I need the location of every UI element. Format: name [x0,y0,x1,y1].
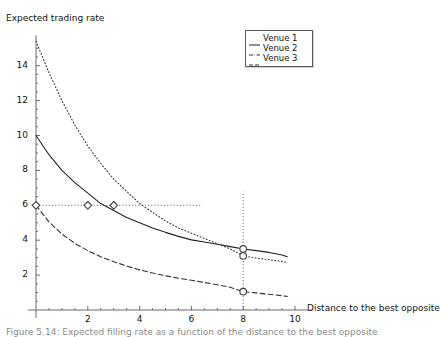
x-tick-label: 6 [177,314,205,324]
data-point-marker [84,202,92,210]
series-line-venue-1 [36,136,287,257]
series-line-venue-2 [36,41,287,262]
y-tick-label: 8 [2,164,28,174]
data-point-marker [240,253,247,260]
y-tick-label: 12 [2,95,28,105]
solid-line-key [249,34,260,42]
y-tick-label: 2 [2,269,28,279]
legend-entry: Venue 2 [249,43,309,53]
legend-entry: Venue 3 [249,53,309,63]
data-point-marker [110,202,118,210]
y-tick-label: 4 [2,234,28,244]
y-tick-label: 10 [2,130,28,140]
dashdot-line-key [249,44,260,52]
x-tick-label: 10 [281,314,309,324]
data-point-marker [240,246,247,253]
x-tick-label: 8 [229,314,257,324]
x-tick-label: 4 [126,314,154,324]
y-tick-label: 6 [2,199,28,209]
legend-label-venue-1: Venue 1 [263,33,298,43]
figure-caption: Figure 5.14: Expected filling rate as a … [6,327,433,337]
dashed-line-key [249,54,260,62]
legend-label-venue-3: Venue 3 [263,53,298,63]
data-point-marker [240,288,247,295]
legend-label-venue-2: Venue 2 [263,43,298,53]
legend: Venue 1 Venue 2 Venue 3 [245,30,313,67]
legend-entry: Venue 1 [249,33,309,43]
x-tick-label: 2 [74,314,102,324]
y-tick-label: 14 [2,60,28,70]
